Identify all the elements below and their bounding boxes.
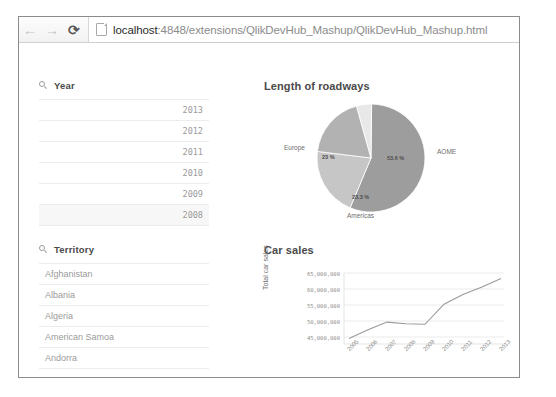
listbox-year-rows: 2013 2012 2011 2010 2009 2008 — [39, 99, 209, 226]
listbox-territory-header: Territory — [39, 244, 209, 263]
pie-plot-area: AOME Americas Europe 53.6 % 23.3 % 23 % — [264, 102, 504, 224]
list-item[interactable]: 2009 — [39, 184, 209, 205]
line-plot-area: Total car sales 65,000,000 60,000,000 55… — [264, 266, 514, 376]
list-item[interactable]: Albania — [39, 285, 209, 306]
address-bar[interactable]: localhost:4848/extensions/QlikDevHub_Mas… — [88, 17, 519, 42]
back-button[interactable]: ← — [19, 18, 41, 42]
pie-label-europe: Europe — [284, 144, 305, 151]
pie-label-americas: Americas — [347, 212, 374, 219]
listbox-year[interactable]: Year 2013 2012 2011 2010 2009 2008 — [39, 80, 209, 226]
list-item[interactable]: 2013 — [39, 100, 209, 121]
browser-toolbar: ← → ⟳ localhost:4848/extensions/QlikDevH… — [19, 17, 519, 43]
browser-window: ← → ⟳ localhost:4848/extensions/QlikDevH… — [18, 16, 520, 378]
pie-value-europe: 23 % — [322, 154, 335, 160]
chart-length-of-roadways[interactable]: Length of roadways — [264, 80, 504, 230]
listbox-year-title: Year — [54, 80, 75, 91]
forward-button[interactable]: → — [41, 18, 63, 42]
list-item[interactable]: 2011 — [39, 142, 209, 163]
listbox-territory-title: Territory — [54, 244, 94, 255]
chart-car-sales[interactable]: Car sales Total car sales 65,000,000 60,… — [264, 244, 514, 374]
pie-chart-title: Length of roadways — [264, 80, 504, 92]
mashup-container: Year 2013 2012 2011 2010 2009 2008 Terri… — [19, 44, 519, 377]
list-item[interactable]: 2010 — [39, 163, 209, 184]
search-icon[interactable] — [39, 245, 48, 254]
url-host: localhost — [113, 24, 158, 36]
list-item[interactable]: 2012 — [39, 121, 209, 142]
page-viewport: Year 2013 2012 2011 2010 2009 2008 Terri… — [19, 44, 519, 377]
list-item-clipped[interactable] — [39, 369, 209, 377]
listbox-territory[interactable]: Territory Afghanistan Albania Algeria Am… — [39, 244, 209, 377]
pie-label-aome: AOME — [437, 148, 456, 155]
pie-value-americas: 23.3 % — [352, 194, 369, 200]
pie-value-aome: 53.6 % — [387, 155, 404, 161]
list-item[interactable]: Andorra — [39, 348, 209, 369]
search-icon[interactable] — [39, 81, 48, 90]
page-document-icon — [96, 23, 107, 36]
line-series-car-sales[interactable] — [349, 279, 501, 339]
list-item[interactable]: Afghanistan — [39, 264, 209, 285]
list-item[interactable]: Algeria — [39, 306, 209, 327]
reload-icon[interactable]: ⟳ — [63, 18, 85, 42]
list-item[interactable]: 2008 — [39, 205, 209, 226]
listbox-year-header: Year — [39, 80, 209, 99]
line-chart-title: Car sales — [264, 244, 514, 256]
url-path: :4848/extensions/QlikDevHub_Mashup/QlikD… — [158, 24, 488, 36]
line-chart-svg — [264, 266, 514, 376]
listbox-territory-rows: Afghanistan Albania Algeria American Sam… — [39, 263, 209, 377]
url-text: localhost:4848/extensions/QlikDevHub_Mas… — [113, 24, 487, 36]
list-item[interactable]: American Samoa — [39, 327, 209, 348]
